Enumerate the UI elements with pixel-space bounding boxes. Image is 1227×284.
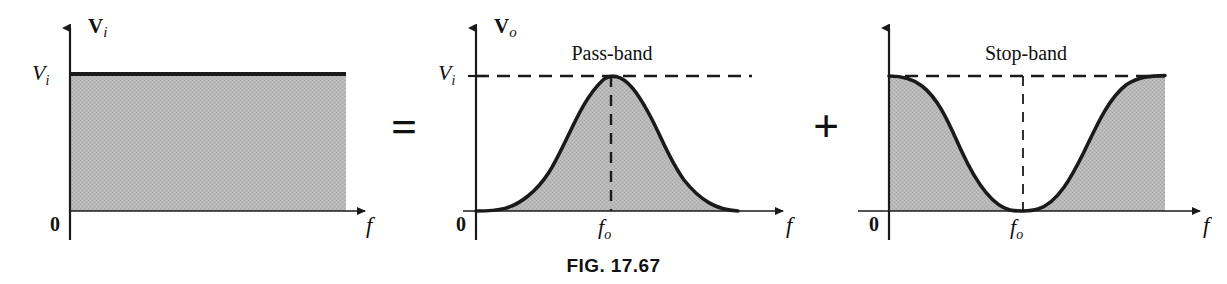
panel3-fo-label: fo <box>1010 216 1023 242</box>
equals-operator: = <box>376 104 432 150</box>
panel1-x-axis-label: f <box>366 214 372 237</box>
panel2-y-tick-label: Vi <box>438 62 455 88</box>
plus-operator: + <box>798 104 854 150</box>
pass-band-label: Pass-band <box>544 42 680 65</box>
panel2-y-tick-label-sub: i <box>451 73 455 88</box>
panel1-y-axis-label-sub: i <box>103 24 107 40</box>
panel2-y-axis-label-main: V <box>494 14 509 38</box>
panel1-y-tick-label-main: V <box>32 60 45 85</box>
panel3-fo-label-sub: o <box>1016 227 1023 242</box>
input-spectrum-fill <box>70 74 346 211</box>
pass-band-fill <box>476 76 738 211</box>
panel1-y-axis-label-main: V <box>88 14 103 38</box>
panel1-y-tick-label-sub: i <box>45 73 49 88</box>
panel3-origin-label: 0 <box>869 214 879 234</box>
panel2-fo-label: fo <box>598 216 611 242</box>
stop-band-label: Stop-band <box>958 42 1094 65</box>
panel2-origin-label: 0 <box>456 214 466 234</box>
figure-caption: FIG. 17.67 <box>0 255 1227 277</box>
panel1-origin-label: 0 <box>50 214 60 234</box>
panel2-x-axis-label: f <box>786 214 792 237</box>
panel3-x-axis-label: f <box>1203 214 1209 237</box>
panel2-fo-label-sub: o <box>604 227 611 242</box>
panel2-y-axis-label-sub: o <box>509 24 517 40</box>
panel2-y-tick-label-main: V <box>438 60 451 85</box>
panel2-y-axis-label: Vo <box>494 16 517 37</box>
panel-input-spectrum <box>70 28 365 240</box>
panel1-y-axis-label: Vi <box>88 16 107 37</box>
panel1-y-tick-label: Vi <box>32 62 49 88</box>
